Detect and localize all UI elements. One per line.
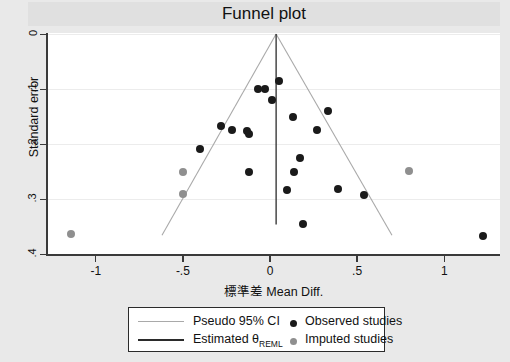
legend-imputed-dot — [290, 338, 297, 345]
observed-study-point — [313, 126, 321, 134]
legend-label-pseudo-ci: Pseudo 95% CI — [193, 314, 280, 328]
observed-study-point — [268, 96, 276, 104]
theta-symbol: θ — [252, 332, 259, 346]
observed-study-point — [324, 107, 332, 115]
legend-label-estimated-theta: Estimated θREML — [193, 332, 283, 349]
pseudo-ci-left-line — [162, 34, 276, 235]
legend: Pseudo 95% CI Estimated θREML Observed s… — [128, 307, 385, 352]
observed-study-point — [334, 185, 342, 193]
legend-estimated-prefix: Estimated — [193, 332, 252, 346]
imputed-study-point — [67, 230, 75, 238]
observed-study-point — [289, 113, 297, 121]
observed-study-point — [479, 232, 487, 240]
legend-label-observed: Observed studies — [305, 314, 402, 328]
observed-study-point — [275, 77, 283, 85]
theta-subscript: REML — [259, 339, 283, 349]
imputed-study-point — [179, 190, 187, 198]
legend-observed-dot — [290, 320, 297, 327]
pseudo-ci-right-line — [276, 34, 392, 235]
funnel-plot-figure: Funnel plot 0 .1 .2 .3 .4 Standard error… — [0, 0, 510, 362]
legend-label-imputed: Imputed studies — [305, 332, 393, 346]
legend-pseudo-ci-line — [138, 321, 184, 322]
observed-study-point — [245, 130, 253, 138]
observed-study-point — [245, 168, 253, 176]
legend-reml-line — [138, 339, 184, 341]
observed-study-point — [228, 126, 236, 134]
